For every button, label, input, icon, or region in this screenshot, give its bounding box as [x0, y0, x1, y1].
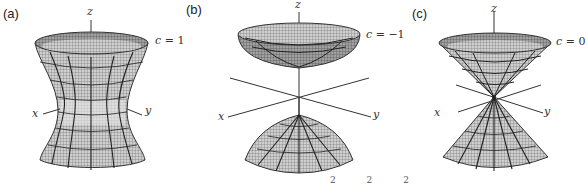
panel-c-y-label: y: [544, 105, 550, 118]
panel-b-z-label: z: [295, 0, 301, 11]
panel-b-c-label: c = −1: [366, 28, 405, 41]
panel-a-y-label: y: [145, 104, 151, 117]
c-value: = 0: [562, 35, 585, 48]
panel-b-y-label: y: [373, 108, 379, 121]
c-value: = 1: [161, 34, 184, 47]
caption-fragment: 2 2 2: [330, 175, 423, 184]
panel-c-x-label: x: [434, 106, 440, 119]
panel-c-c-label: c = 0: [556, 35, 585, 48]
panel-a-c-label: c = 1: [155, 34, 184, 47]
panel-a-z-label: z: [87, 5, 93, 18]
hyperboloid-one-sheet: [35, 20, 148, 170]
surfaces-svg: [0, 0, 588, 184]
panel-c-z-label: z: [491, 2, 497, 15]
double-cone: [439, 12, 551, 171]
panel-a-x-label: x: [32, 107, 38, 120]
hyperboloid-two-sheets: [228, 12, 371, 173]
c-value: = −1: [372, 28, 404, 41]
panel-b-x-label: x: [218, 110, 224, 123]
